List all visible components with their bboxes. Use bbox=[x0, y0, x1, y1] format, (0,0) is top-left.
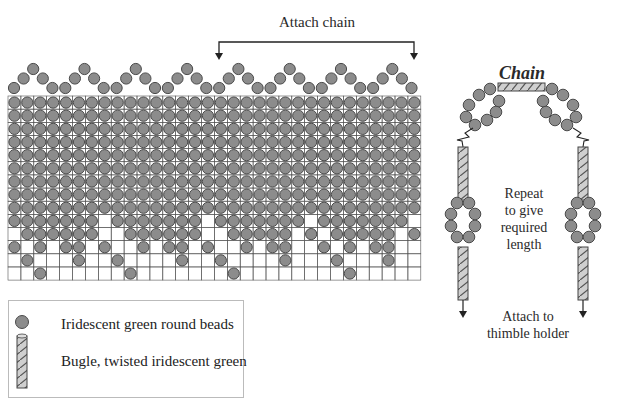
bead-icon bbox=[589, 220, 601, 232]
bead-icon bbox=[138, 202, 149, 213]
bead-icon bbox=[318, 150, 329, 161]
thread-zigzag-icon bbox=[573, 128, 589, 147]
bead-icon bbox=[241, 242, 252, 253]
bead-icon bbox=[22, 136, 33, 147]
bead-icon bbox=[164, 150, 175, 161]
bead-icon bbox=[540, 106, 552, 118]
bead-icon bbox=[164, 202, 175, 213]
bead-icon bbox=[293, 189, 304, 200]
bead-icon bbox=[112, 110, 123, 121]
bead-icon bbox=[215, 136, 226, 147]
bead-icon bbox=[344, 189, 355, 200]
bead-icon bbox=[177, 255, 188, 266]
bead-icon bbox=[406, 82, 417, 93]
bead-icon bbox=[99, 97, 110, 108]
bead-icon bbox=[565, 208, 577, 220]
bead-icon bbox=[215, 150, 226, 161]
bead-icon bbox=[306, 97, 317, 108]
bead-icon bbox=[177, 242, 188, 253]
bead-icon bbox=[125, 228, 136, 239]
bead-icon bbox=[189, 150, 200, 161]
bead-icon bbox=[254, 228, 265, 239]
bead-icon bbox=[318, 215, 329, 226]
bead-icon bbox=[344, 242, 355, 253]
bead-icon bbox=[215, 255, 226, 266]
bead-icon bbox=[228, 136, 239, 147]
bead-icon bbox=[242, 73, 253, 84]
bead-icon bbox=[125, 123, 136, 134]
bead-icon bbox=[280, 242, 291, 253]
bead-icon bbox=[463, 231, 475, 243]
legend-label-round-beads: Iridescent green round beads bbox=[61, 316, 234, 333]
bead-icon bbox=[177, 176, 188, 187]
bead-icon bbox=[151, 189, 162, 200]
bead-icon bbox=[112, 189, 123, 200]
bead-icon bbox=[460, 111, 472, 123]
bead-icon bbox=[189, 123, 200, 134]
bead-icon bbox=[370, 228, 381, 239]
bead-icon bbox=[561, 119, 573, 131]
bead-icon bbox=[125, 110, 136, 121]
bead-icon bbox=[409, 136, 420, 147]
bead-icon bbox=[409, 202, 420, 213]
bead-icon bbox=[151, 97, 162, 108]
bead-icon bbox=[228, 97, 239, 108]
bead-icon bbox=[254, 97, 265, 108]
bead-icon bbox=[409, 97, 420, 108]
bead-icon bbox=[151, 150, 162, 161]
bead-icon bbox=[228, 215, 239, 226]
bead-icon bbox=[490, 106, 502, 118]
bead-icon bbox=[331, 97, 342, 108]
bead-icon bbox=[164, 242, 175, 253]
bead-icon bbox=[73, 189, 84, 200]
bead-icon bbox=[60, 110, 71, 121]
bead-icon bbox=[589, 208, 601, 220]
bead-icon bbox=[357, 189, 368, 200]
bead-icon bbox=[316, 82, 327, 93]
bead-icon bbox=[215, 163, 226, 174]
bead-icon bbox=[202, 97, 213, 108]
bead-icon bbox=[344, 176, 355, 187]
bead-icon bbox=[202, 176, 213, 187]
bead-icon bbox=[177, 189, 188, 200]
bead-icon bbox=[86, 123, 97, 134]
bead-icon bbox=[318, 163, 329, 174]
bead-icon bbox=[357, 97, 368, 108]
bead-icon bbox=[254, 189, 265, 200]
bead-icon bbox=[293, 123, 304, 134]
bead-icon bbox=[177, 123, 188, 134]
bead-icon bbox=[48, 110, 59, 121]
thread-zigzag-icon bbox=[457, 128, 473, 147]
bead-icon bbox=[293, 150, 304, 161]
bead-icon bbox=[241, 110, 252, 121]
bead-icon bbox=[215, 110, 226, 121]
bead-icon bbox=[18, 73, 29, 84]
bead-icon bbox=[383, 150, 394, 161]
bead-icon bbox=[331, 255, 342, 266]
bead-icon bbox=[396, 163, 407, 174]
bead-icon bbox=[86, 97, 97, 108]
bead-icon bbox=[60, 97, 71, 108]
bead-icon bbox=[202, 123, 213, 134]
bead-icon bbox=[60, 202, 71, 213]
bead-icon bbox=[125, 176, 136, 187]
bead-icon bbox=[138, 189, 149, 200]
bead-icon bbox=[306, 189, 317, 200]
bead-icon bbox=[177, 136, 188, 147]
bead-icon bbox=[138, 163, 149, 174]
bead-icon bbox=[546, 83, 558, 95]
bead-icon bbox=[73, 110, 84, 121]
bead-icon bbox=[112, 176, 123, 187]
bead-icon bbox=[228, 110, 239, 121]
bead-icon bbox=[189, 136, 200, 147]
bead-icon bbox=[280, 215, 291, 226]
bead-icon bbox=[138, 215, 149, 226]
bead-icon bbox=[344, 150, 355, 161]
bead-icon bbox=[9, 123, 20, 134]
bead-icon bbox=[112, 136, 123, 147]
bead-icon bbox=[9, 215, 20, 226]
bead-icon bbox=[151, 228, 162, 239]
bead-icon bbox=[383, 136, 394, 147]
bead-icon bbox=[293, 136, 304, 147]
bead-icon bbox=[35, 215, 46, 226]
